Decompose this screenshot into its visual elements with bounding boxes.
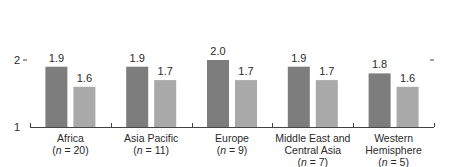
category-label: Asia Pacific — [124, 132, 178, 144]
category-n-label: (n = 7) — [297, 156, 328, 167]
category-n-label: (n = 5) — [378, 156, 409, 167]
bar — [288, 67, 310, 127]
bar-value-label: 1.9 — [49, 52, 64, 64]
y-tick-label: 1 — [14, 121, 20, 133]
bar-value-label: 1.7 — [158, 65, 173, 77]
category-label: Central Asia — [284, 144, 341, 156]
bar-value-label: 1.6 — [400, 72, 415, 84]
bar-value-label: 1.9 — [130, 52, 145, 64]
bar-value-label: 1.7 — [238, 65, 253, 77]
bar-value-label: 1.8 — [372, 58, 387, 70]
y-tick-label: 2 — [14, 54, 20, 66]
bar-group-africa: 1.91.6Africa(n = 20) — [45, 52, 95, 156]
category-label: Hemisphere — [365, 144, 422, 156]
category-n-label: (n = 9) — [217, 144, 248, 156]
bar-group-middle-east-and-central-asia: 1.91.7Middle East andCentral Asia(n = 7) — [275, 52, 350, 167]
bar — [45, 67, 67, 127]
bar-value-label: 1.7 — [319, 65, 334, 77]
bar — [235, 80, 257, 127]
bar-group-asia-pacific: 1.91.7Asia Pacific(n = 11) — [124, 52, 178, 156]
bar — [316, 80, 338, 127]
category-label: Europe — [215, 132, 249, 144]
category-n-label: (n = 11) — [133, 144, 169, 156]
bar-chart: 121.91.6Africa(n = 20)1.91.7Asia Pacific… — [0, 0, 457, 167]
bar-value-label: 2.0 — [210, 45, 225, 57]
bar — [154, 80, 176, 127]
bar — [126, 67, 148, 127]
bar — [397, 87, 419, 127]
bar-group-western-hemisphere: 1.81.6WesternHemisphere(n = 5) — [365, 58, 422, 167]
bar — [207, 60, 229, 127]
bar-value-label: 1.6 — [77, 72, 92, 84]
category-label: Middle East and — [275, 132, 350, 144]
bar — [73, 87, 95, 127]
bar — [369, 73, 391, 127]
category-n-label: (n = 20) — [52, 144, 89, 156]
category-label: Western — [374, 132, 413, 144]
category-label: Africa — [57, 132, 84, 144]
bar-value-label: 1.9 — [291, 52, 306, 64]
bar-group-europe: 2.01.7Europe(n = 9) — [207, 45, 257, 156]
